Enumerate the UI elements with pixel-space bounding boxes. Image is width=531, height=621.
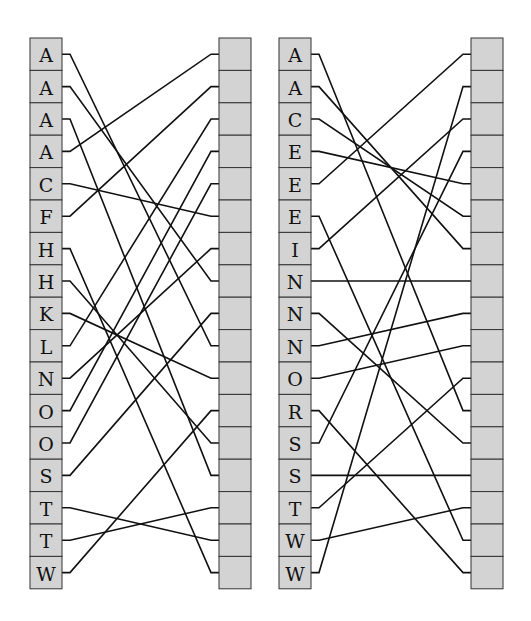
left-node: H bbox=[30, 265, 62, 297]
right-node bbox=[471, 38, 503, 70]
bipartite-matching-diagram: AAAACFHHKLNOOSTTWAACEEEINNNORSSTWW bbox=[0, 0, 531, 621]
right-node bbox=[219, 459, 251, 491]
right-node bbox=[471, 362, 503, 394]
matching-edge bbox=[62, 54, 219, 151]
left-node: E bbox=[279, 135, 311, 167]
node-label: E bbox=[288, 206, 302, 228]
node-label: N bbox=[287, 336, 304, 358]
left-node: C bbox=[279, 103, 311, 135]
left-node: F bbox=[30, 200, 62, 232]
node-label: H bbox=[38, 239, 55, 261]
matching-edge bbox=[311, 508, 471, 540]
node-label: A bbox=[38, 109, 53, 131]
right-node bbox=[219, 265, 251, 297]
matching-edge bbox=[311, 54, 471, 184]
node-label: L bbox=[40, 336, 53, 358]
right-node bbox=[219, 135, 251, 167]
matching-edge bbox=[311, 411, 471, 573]
right-node bbox=[219, 492, 251, 524]
matching-edge bbox=[311, 378, 471, 508]
right-node bbox=[471, 427, 503, 459]
node-label: S bbox=[288, 465, 301, 487]
matching-edge bbox=[311, 54, 471, 410]
left-node: K bbox=[30, 297, 62, 329]
right-node bbox=[471, 200, 503, 232]
node-label: N bbox=[38, 368, 55, 390]
right-node bbox=[219, 524, 251, 556]
node-label: C bbox=[39, 174, 54, 196]
right-node bbox=[471, 135, 503, 167]
right-node bbox=[471, 265, 503, 297]
left-node: I bbox=[279, 232, 311, 264]
right-node bbox=[219, 168, 251, 200]
right-node bbox=[219, 394, 251, 426]
left-node: O bbox=[279, 362, 311, 394]
node-label: A bbox=[287, 44, 302, 66]
right-column bbox=[471, 38, 503, 589]
left-node: W bbox=[279, 556, 311, 588]
left-node: S bbox=[30, 459, 62, 491]
node-label: A bbox=[38, 44, 53, 66]
right-node bbox=[219, 232, 251, 264]
right-node bbox=[471, 103, 503, 135]
matching-edge bbox=[311, 151, 471, 443]
left-node: W bbox=[30, 556, 62, 588]
right-node bbox=[219, 427, 251, 459]
matching-edge bbox=[311, 346, 471, 378]
right-node bbox=[219, 297, 251, 329]
matching-edge bbox=[62, 281, 219, 443]
right-node bbox=[471, 168, 503, 200]
left-node: A bbox=[279, 38, 311, 70]
left-node: L bbox=[30, 330, 62, 362]
node-label: N bbox=[287, 303, 304, 325]
node-label: K bbox=[39, 303, 54, 325]
node-label: A bbox=[38, 77, 53, 99]
left-node: W bbox=[279, 524, 311, 556]
node-label: H bbox=[38, 271, 55, 293]
right-node bbox=[219, 330, 251, 362]
left-node: O bbox=[30, 394, 62, 426]
left-node: T bbox=[30, 492, 62, 524]
node-label: S bbox=[288, 433, 301, 455]
matching-edge bbox=[62, 87, 219, 281]
left-node: T bbox=[279, 492, 311, 524]
node-label: E bbox=[288, 174, 302, 196]
right-matching: AACEEEINNNORSSTWW bbox=[279, 38, 503, 589]
left-node: H bbox=[30, 232, 62, 264]
node-label: A bbox=[287, 77, 302, 99]
right-node bbox=[471, 70, 503, 102]
right-node bbox=[471, 524, 503, 556]
left-column: AACEEEINNNORSSTWW bbox=[279, 38, 311, 589]
left-node: S bbox=[279, 427, 311, 459]
right-node bbox=[219, 556, 251, 588]
right-node bbox=[471, 330, 503, 362]
node-label: O bbox=[38, 433, 54, 455]
right-node bbox=[471, 232, 503, 264]
right-column bbox=[219, 38, 251, 589]
matching-edge bbox=[311, 313, 471, 443]
right-node bbox=[219, 38, 251, 70]
right-node bbox=[219, 103, 251, 135]
node-label: I bbox=[291, 239, 299, 261]
node-label: A bbox=[38, 141, 53, 163]
matching-edge bbox=[62, 313, 219, 475]
left-node: C bbox=[30, 168, 62, 200]
node-label: T bbox=[289, 498, 302, 520]
right-node bbox=[471, 492, 503, 524]
right-node bbox=[219, 200, 251, 232]
left-node: T bbox=[30, 524, 62, 556]
right-node bbox=[219, 70, 251, 102]
left-node: S bbox=[279, 459, 311, 491]
matching-edge bbox=[311, 87, 471, 573]
left-node: N bbox=[279, 297, 311, 329]
left-node: E bbox=[279, 168, 311, 200]
left-node: A bbox=[30, 70, 62, 102]
right-node bbox=[471, 297, 503, 329]
node-label: E bbox=[288, 141, 302, 163]
node-label: T bbox=[40, 530, 53, 552]
node-label: R bbox=[288, 401, 303, 423]
node-label: F bbox=[39, 206, 52, 228]
left-column: AAAACFHHKLNOOSTTW bbox=[30, 38, 62, 589]
edges bbox=[62, 54, 219, 572]
node-label: O bbox=[287, 368, 303, 390]
